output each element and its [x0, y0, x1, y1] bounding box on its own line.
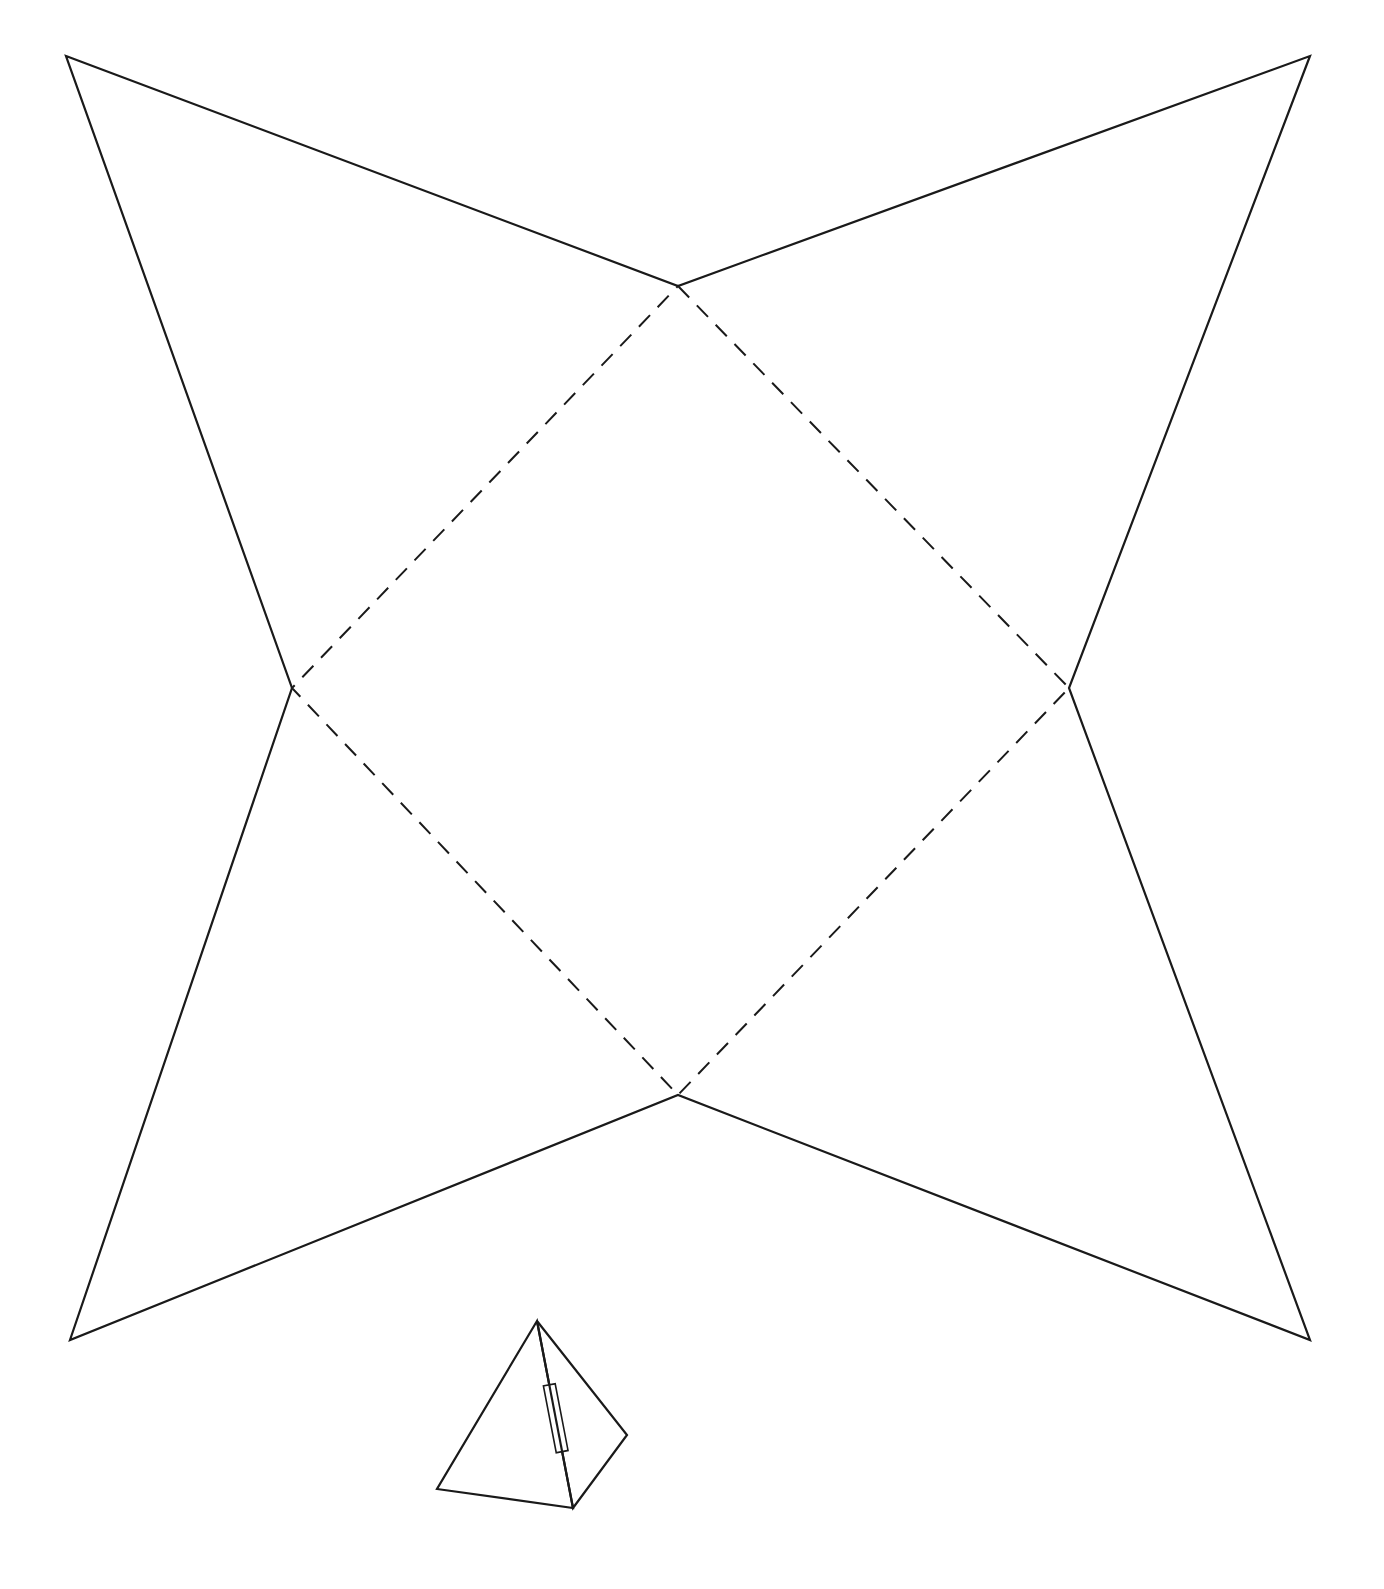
glue-tab [543, 1384, 568, 1453]
assembled-pyramid-preview [437, 1321, 627, 1508]
pyramid-net-diagram [0, 0, 1384, 1589]
base-square-fold-lines [292, 286, 1069, 1095]
net-outer-outline [66, 56, 1310, 1340]
